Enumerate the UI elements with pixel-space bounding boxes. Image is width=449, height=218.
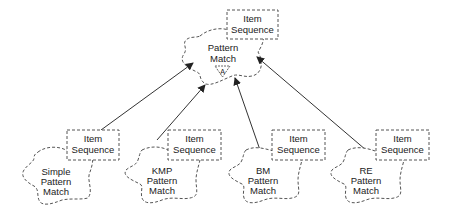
inheritance-arrow-simple — [101, 63, 193, 130]
kmp-name-line-3: Match — [149, 185, 175, 196]
child-class-bm-pattern-match[interactable]: BM Pattern Match Item Sequence — [229, 130, 325, 203]
re-name-line-3: Match — [353, 185, 379, 196]
simple-name-line-3: Match — [43, 186, 69, 197]
re-param-line-2: Sequence — [381, 144, 424, 155]
root-name-line-1: Pattern — [208, 42, 239, 53]
child-class-simple-pattern-match[interactable]: Simple Pattern Match Item Sequence — [23, 130, 119, 204]
re-param-line-1: Item — [393, 133, 412, 144]
root-param-line-1: Item — [243, 13, 262, 24]
child-class-re-pattern-match[interactable]: RE Pattern Match Item Sequence — [331, 130, 429, 203]
simple-param-line-1: Item — [84, 133, 103, 144]
root-name-line-2: Match — [210, 53, 236, 64]
bm-param-line-1: Item — [289, 133, 308, 144]
class-diagram: Pattern Match A Item Sequence Simple Pat… — [0, 0, 449, 218]
child-class-kmp-pattern-match[interactable]: KMP Pattern Match Item Sequence — [125, 130, 221, 203]
kmp-param-line-1: Item — [185, 133, 204, 144]
bm-name-line-3: Match — [250, 185, 276, 196]
root-class-pattern-match[interactable]: Pattern Match A Item Sequence — [182, 10, 278, 84]
kmp-param-line-2: Sequence — [173, 144, 216, 155]
root-param-line-2: Sequence — [231, 24, 274, 35]
inheritance-arrow-bm — [235, 78, 260, 150]
bm-param-line-2: Sequence — [277, 144, 320, 155]
svg-text:A: A — [220, 68, 225, 75]
simple-param-line-2: Sequence — [72, 144, 115, 155]
